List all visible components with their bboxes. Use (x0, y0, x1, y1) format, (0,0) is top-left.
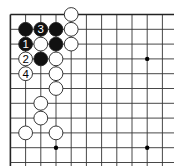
black-stone: 3 (34, 22, 48, 36)
white-stone-disc (64, 8, 78, 22)
move-number-label: 3 (38, 23, 44, 35)
white-stone (34, 111, 48, 125)
white-stone (49, 126, 63, 140)
black-stone-disc (49, 37, 63, 51)
white-stone (64, 8, 78, 22)
white-stone (34, 96, 48, 110)
white-stone (34, 37, 48, 51)
white-stone: 4 (19, 67, 33, 81)
go-board: 3124 (0, 0, 184, 167)
white-stone-disc (49, 126, 63, 140)
white-stone: 2 (19, 52, 33, 66)
white-stone-disc (49, 67, 63, 81)
white-stone-disc (64, 37, 78, 51)
move-number-label: 1 (22, 38, 28, 50)
black-stone (49, 22, 63, 36)
white-stone-disc (34, 111, 48, 125)
white-stone (64, 22, 78, 36)
black-stone-disc (19, 22, 33, 36)
white-stone-disc (19, 126, 33, 140)
black-stone-disc (49, 22, 63, 36)
white-stone-disc (64, 22, 78, 36)
star-point (145, 57, 149, 61)
white-stone (49, 82, 63, 96)
black-stone: 1 (19, 37, 33, 51)
star-point (145, 146, 149, 150)
move-number-label: 2 (22, 53, 28, 65)
star-point (54, 146, 58, 150)
black-stone (19, 22, 33, 36)
black-stone-disc (34, 52, 48, 66)
board-grid (10, 15, 174, 167)
white-stone-disc (49, 82, 63, 96)
white-stone (49, 67, 63, 81)
move-number-label: 4 (22, 68, 29, 80)
white-stone-disc (34, 37, 48, 51)
white-stone (49, 52, 63, 66)
white-stone (19, 126, 33, 140)
black-stone (49, 37, 63, 51)
black-stone (34, 52, 48, 66)
white-stone-disc (49, 52, 63, 66)
white-stone (64, 37, 78, 51)
white-stone-disc (34, 96, 48, 110)
